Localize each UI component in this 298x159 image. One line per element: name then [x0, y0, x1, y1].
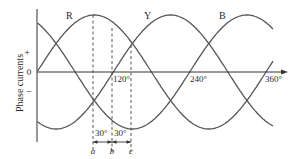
x-tick-240: 240° [190, 74, 208, 84]
y-axis-label: Phase currents [14, 54, 25, 112]
wave-label-b: B [219, 10, 226, 21]
x-tick-120: 120° [113, 74, 131, 84]
marker-label-a: a [91, 146, 96, 156]
y-tick-plus: + [24, 47, 30, 58]
marker-label-c: c [129, 146, 133, 156]
arrow-a-right-icon [93, 140, 98, 143]
three-phase-diagram: Phase currents + 0 − 120° 240° 360° R Y … [0, 0, 298, 159]
y-tick-zero: 0 [27, 67, 32, 77]
wave-label-y: Y [144, 10, 151, 21]
arrow-b-right-icon [112, 140, 117, 143]
interval-label-1: 30° [95, 128, 108, 138]
arrow-c-left-icon [127, 140, 132, 143]
arrow-b-left-icon [108, 140, 113, 143]
x-tick-360: 360° [265, 74, 283, 84]
wave-label-r: R [66, 10, 73, 21]
marker-label-b: b [110, 146, 115, 156]
interval-label-2: 30° [114, 128, 127, 138]
y-tick-minus: − [26, 86, 32, 97]
